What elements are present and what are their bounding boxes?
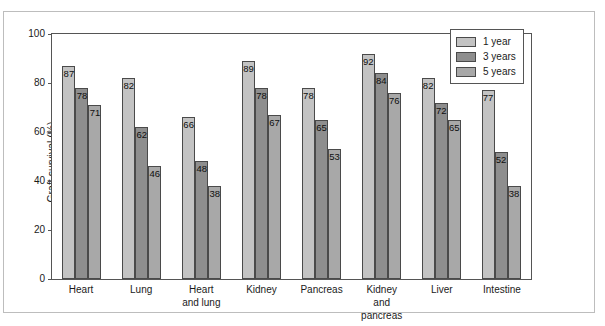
bar-value-label: 87 — [64, 69, 75, 79]
x-axis-category-line: Intestine — [472, 283, 532, 296]
x-axis-category-line: pancreas — [352, 309, 412, 322]
bar-value-label: 48 — [196, 164, 207, 174]
bar-value-label: 53 — [329, 152, 340, 162]
bar[interactable]: 78 — [75, 88, 88, 279]
bar-group: 826246 — [112, 34, 172, 279]
legend-label: 3 years — [483, 51, 516, 62]
bar[interactable]: 72 — [435, 103, 448, 279]
x-axis-category-label: Lung — [111, 283, 171, 296]
x-axis-category-label: Liver — [412, 283, 472, 296]
bar-value-label: 66 — [183, 120, 194, 130]
bar[interactable]: 76 — [388, 93, 401, 279]
bar[interactable]: 48 — [195, 161, 208, 279]
bar-value-label: 72 — [436, 106, 447, 116]
bar-value-label: 71 — [90, 108, 101, 118]
bar[interactable]: 52 — [495, 152, 508, 279]
bar-value-label: 82 — [123, 81, 134, 91]
bar-value-label: 46 — [150, 169, 161, 179]
legend-swatch — [456, 52, 476, 62]
bar[interactable]: 65 — [315, 120, 328, 279]
bar-value-label: 65 — [449, 123, 460, 133]
bar-value-label: 92 — [363, 57, 374, 67]
x-axis-category-line: Kidney — [352, 283, 412, 296]
bar-group: 897867 — [232, 34, 292, 279]
bar-group: 664838 — [172, 34, 232, 279]
y-axis-tick-label: 60 — [34, 127, 52, 137]
x-axis-category-line: and lung — [171, 296, 231, 309]
bar[interactable]: 67 — [268, 115, 281, 279]
bar[interactable]: 78 — [255, 88, 268, 279]
bar-value-label: 52 — [496, 155, 507, 165]
legend-item[interactable]: 5 years — [456, 64, 516, 79]
bar[interactable]: 78 — [302, 88, 315, 279]
x-axis-labels: HeartLungHeartand lungKidneyPancreasKidn… — [51, 283, 532, 326]
bar-value-label: 38 — [509, 189, 520, 199]
bar-value-label: 65 — [316, 123, 327, 133]
bar[interactable]: 77 — [482, 90, 495, 279]
x-axis-category-line: Heart — [51, 283, 111, 296]
bar[interactable]: 65 — [448, 120, 461, 279]
bar[interactable]: 38 — [508, 186, 521, 279]
bar[interactable]: 89 — [242, 61, 255, 279]
legend-swatch — [456, 67, 476, 77]
bar[interactable]: 46 — [148, 166, 161, 279]
x-axis-category-label: Kidneyandpancreas — [352, 283, 412, 322]
bar-value-label: 76 — [389, 96, 400, 106]
x-axis-category-label: Pancreas — [292, 283, 352, 296]
y-axis-tick-label: 20 — [34, 225, 52, 235]
legend-label: 5 years — [483, 66, 516, 77]
figure-frame: Graft survival (%) 020406080100 87787182… — [3, 11, 595, 313]
bar-value-label: 78 — [303, 91, 314, 101]
x-axis-category-line: and — [352, 296, 412, 309]
x-axis-category-label: Heartand lung — [171, 283, 231, 309]
x-axis-category-line: Liver — [412, 283, 472, 296]
bar[interactable]: 38 — [208, 186, 221, 279]
bar-value-label: 77 — [483, 93, 494, 103]
x-axis-category-line: Heart — [171, 283, 231, 296]
bar[interactable]: 82 — [422, 78, 435, 279]
bar-value-label: 78 — [256, 91, 267, 101]
bar-value-label: 67 — [269, 118, 280, 128]
bar[interactable]: 66 — [182, 117, 195, 279]
x-axis-category-label: Intestine — [472, 283, 532, 296]
bar-group: 877871 — [52, 34, 112, 279]
y-axis-tick-label: 100 — [28, 29, 52, 39]
chart-legend: 1 year3 years5 years — [450, 29, 524, 84]
bar-group: 786553 — [292, 34, 352, 279]
bar[interactable]: 53 — [328, 149, 341, 279]
bar[interactable]: 71 — [88, 105, 101, 279]
bar[interactable]: 87 — [62, 66, 75, 279]
legend-label: 1 year — [483, 36, 511, 47]
x-axis-category-line: Pancreas — [292, 283, 352, 296]
legend-item[interactable]: 3 years — [456, 49, 516, 64]
bar[interactable]: 84 — [375, 73, 388, 279]
bar[interactable]: 62 — [135, 127, 148, 279]
bar-value-label: 78 — [77, 91, 88, 101]
bar[interactable]: 82 — [122, 78, 135, 279]
y-axis-tick-label: 80 — [34, 78, 52, 88]
bar[interactable]: 92 — [362, 54, 375, 279]
bar-value-label: 84 — [376, 76, 387, 86]
legend-swatch — [456, 37, 476, 47]
bar-value-label: 62 — [137, 130, 148, 140]
x-axis-category-label: Kidney — [231, 283, 291, 296]
bar-value-label: 38 — [209, 189, 220, 199]
x-axis-category-line: Kidney — [231, 283, 291, 296]
legend-item[interactable]: 1 year — [456, 34, 516, 49]
x-axis-category-label: Heart — [51, 283, 111, 296]
bar-value-label: 89 — [243, 64, 254, 74]
bar-value-label: 82 — [423, 81, 434, 91]
x-axis-category-line: Lung — [111, 283, 171, 296]
y-axis-tick-label: 40 — [34, 176, 52, 186]
bar-group: 928476 — [351, 34, 411, 279]
